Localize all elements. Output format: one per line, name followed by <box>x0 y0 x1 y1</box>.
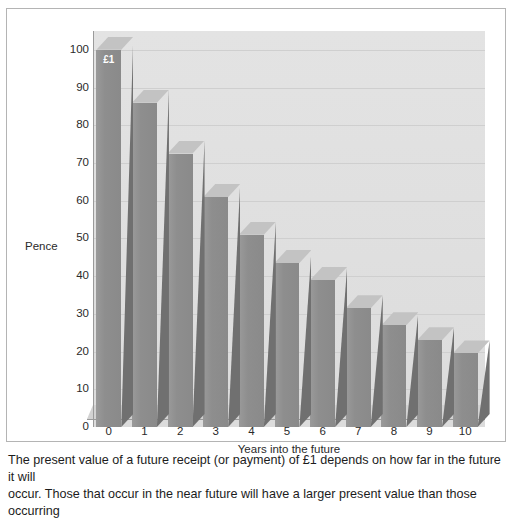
bar <box>168 154 193 427</box>
bar-front-face <box>310 280 335 427</box>
bar-top-face <box>168 141 205 154</box>
bar-series: £1 <box>93 31 485 427</box>
bar-front-face <box>417 340 442 427</box>
bar <box>453 353 478 427</box>
bar-front-face <box>453 353 478 427</box>
bar-side-face <box>121 37 133 427</box>
bar-top-face <box>381 312 418 325</box>
caption-line-2: occur. Those that occur in the near futu… <box>8 486 506 520</box>
bar-top-face <box>346 295 383 308</box>
y-tick-label: 70 <box>43 157 89 169</box>
figure-frame: 0102030405060708090100 Pence £1 01234567… <box>6 8 506 442</box>
y-tick-label: 0 <box>43 421 89 433</box>
bar <box>346 308 371 427</box>
bar-front-face <box>346 308 371 427</box>
y-tick-label: 20 <box>43 346 89 358</box>
bar <box>203 197 228 427</box>
bar-chart: 0102030405060708090100 Pence £1 01234567… <box>7 9 505 441</box>
bar-front-face <box>275 263 300 427</box>
y-tick-label: 60 <box>43 195 89 207</box>
figure-caption: The present value of a future receipt (o… <box>8 452 506 520</box>
bar-top-face <box>96 37 133 50</box>
bar-top-face <box>417 327 454 340</box>
bar-top-face <box>275 250 312 263</box>
bar-top-face <box>203 184 240 197</box>
y-tick-label: 80 <box>43 119 89 131</box>
bar-top-face <box>453 340 490 353</box>
bar-side-face <box>228 184 240 427</box>
bar <box>275 263 300 427</box>
bar-front-face <box>168 154 193 427</box>
bar <box>239 235 264 427</box>
bar-side-face <box>442 327 454 427</box>
bar-side-face <box>478 340 490 427</box>
x-axis-ticks: 012345678910 <box>93 425 485 443</box>
bar <box>381 325 406 427</box>
bar-front-face <box>132 103 157 427</box>
caption-line-1: The present value of a future receipt (o… <box>8 452 506 486</box>
bar-side-face <box>406 312 418 427</box>
bar-side-face <box>371 295 383 427</box>
bar-side-face <box>193 141 205 427</box>
bar-top-face <box>132 90 169 103</box>
bar-side-face <box>335 267 347 427</box>
y-tick-label: 30 <box>43 308 89 320</box>
y-tick-label: 90 <box>43 82 89 94</box>
bar-front-face <box>239 235 264 427</box>
bar-top-face <box>310 267 347 280</box>
y-tick-label: 10 <box>43 383 89 395</box>
y-tick-label: 100 <box>43 44 89 56</box>
bar-top-face <box>239 222 276 235</box>
bar-front-face <box>96 50 121 427</box>
bar-side-face <box>299 250 311 427</box>
bar-front-face <box>381 325 406 427</box>
bar-side-face <box>264 222 276 427</box>
bar <box>310 280 335 427</box>
bar <box>417 340 442 427</box>
bar-side-face <box>157 90 169 427</box>
bar: £1 <box>96 50 121 427</box>
y-axis-title: Pence <box>25 240 58 252</box>
bar-front-face <box>203 197 228 427</box>
y-axis-ticks: 0102030405060708090100 <box>33 9 89 441</box>
bar <box>132 103 157 427</box>
bar-value-label: £1 <box>96 54 121 65</box>
y-tick-label: 40 <box>43 270 89 282</box>
